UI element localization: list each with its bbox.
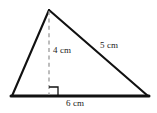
hypotenuse-measure-label: 5 cm — [100, 40, 118, 50]
triangle-diagram-svg — [0, 0, 157, 113]
height-measure-label: 4 cm — [53, 45, 71, 55]
base-measure-label: 6 cm — [66, 98, 84, 108]
triangle-left-side — [12, 10, 49, 96]
geometry-figure: 4 cm 5 cm 6 cm — [0, 0, 157, 113]
